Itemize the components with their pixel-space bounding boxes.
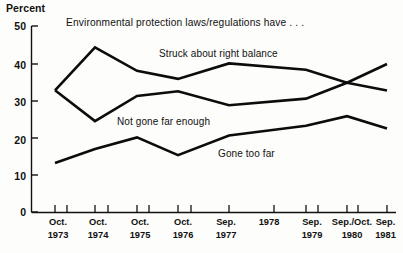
x-tick-label-1973: Oct. 1973 [38, 216, 78, 241]
x-tick-label-1981: Sep. 1981 [368, 216, 403, 241]
x-tick-label-1975: Oct. 1975 [120, 216, 160, 241]
series-label-struck-about-right-balance: Struck about right balance [159, 48, 278, 59]
series-label-gone-too-far: Gone too far [218, 148, 275, 159]
x-axis-ticks [55, 205, 387, 213]
y-axis-ticks [32, 26, 39, 212]
x-tick-label-1978: 1978 [249, 216, 289, 229]
line-chart: Percent Environmental protection laws/re… [0, 0, 403, 253]
series-label-not-gone-far-enough: Not gone far enough [117, 116, 210, 127]
series-line-not-gone-far-enough [55, 64, 387, 121]
x-tick-label-1974: Oct. 1974 [78, 216, 118, 241]
x-tick-label-1977: Sep. 1977 [206, 216, 246, 241]
x-tick-label-1976: Oct. 1976 [163, 216, 203, 241]
